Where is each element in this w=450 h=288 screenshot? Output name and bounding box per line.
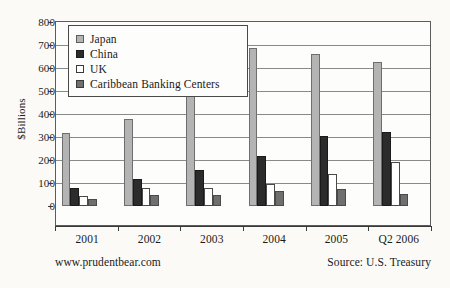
bar: [142, 188, 151, 206]
x-tick-mark: [243, 226, 244, 231]
y-tick-mark: [48, 68, 53, 69]
bar: [373, 62, 382, 206]
x-tick-label: 2005: [305, 233, 367, 245]
legend-label: Caribbean Banking Centers: [90, 78, 220, 90]
legend-swatch-icon: [76, 35, 84, 43]
bar: [88, 199, 97, 206]
bar: [133, 179, 142, 206]
y-tick-mark: [48, 160, 53, 161]
x-tick-label: Q2 2006: [368, 233, 430, 245]
bar: [249, 48, 258, 206]
legend-label: Japan: [90, 33, 117, 45]
bar-group: [305, 22, 367, 206]
bar-chart: $Billions 8007006005004003002001000 2001…: [0, 0, 450, 288]
bar-set: [368, 22, 430, 206]
y-tick-mark: [48, 206, 53, 207]
legend: JapanChinaUKCaribbean Banking Centers: [68, 25, 248, 97]
x-tick-host: [55, 226, 431, 232]
footer-website: www.prudentbear.com: [55, 256, 161, 268]
x-tick-label: 2004: [243, 233, 305, 245]
footer-source: Source: U.S. Treasury: [327, 256, 431, 268]
bar: [391, 162, 400, 206]
x-tick-mark: [118, 226, 119, 231]
bar: [79, 196, 88, 206]
bar: [150, 195, 159, 206]
bar: [186, 91, 195, 206]
y-tick-mark: [48, 91, 53, 92]
bar: [266, 184, 275, 206]
y-tick-mark: [48, 45, 53, 46]
legend-item[interactable]: Japan: [76, 31, 240, 46]
bar: [70, 188, 79, 206]
bar: [257, 156, 266, 206]
y-tick-mark: [48, 22, 53, 23]
x-tick-mark: [55, 226, 56, 231]
x-axis-labels: 20012002200320042005Q2 2006: [56, 233, 430, 245]
bar-group: [368, 22, 430, 206]
bar-set: [305, 22, 367, 206]
bar: [311, 54, 320, 206]
legend-item[interactable]: China: [76, 46, 240, 61]
bar: [337, 189, 346, 206]
x-tick-label: 2001: [56, 233, 118, 245]
bar: [382, 132, 391, 206]
footer: www.prudentbear.com Source: U.S. Treasur…: [55, 256, 431, 268]
legend-swatch-icon: [76, 50, 84, 58]
x-tick-mark: [368, 226, 369, 231]
bar: [213, 195, 222, 206]
bar: [195, 170, 204, 206]
y-axis: $Billions 8007006005004003002001000: [0, 21, 55, 206]
bar: [275, 191, 284, 206]
x-tick-mark: [180, 226, 181, 231]
bar-set: [243, 22, 305, 206]
bar-group: [243, 22, 305, 206]
bar: [204, 188, 213, 206]
bar: [400, 194, 409, 206]
legend-label: China: [90, 48, 118, 60]
x-tick-label: 2002: [118, 233, 180, 245]
legend-swatch-icon: [76, 65, 84, 73]
y-tick-mark: [48, 114, 53, 115]
legend-item[interactable]: UK: [76, 61, 240, 76]
y-tick-mark: [48, 183, 53, 184]
legend-label: UK: [90, 63, 107, 75]
bar: [62, 133, 71, 206]
legend-item[interactable]: Caribbean Banking Centers: [76, 76, 240, 91]
bar: [328, 174, 337, 206]
x-tick-mark: [431, 226, 432, 231]
bar: [320, 136, 329, 206]
legend-swatch-icon: [76, 80, 84, 88]
x-tick-mark: [306, 226, 307, 231]
y-tick-mark: [48, 137, 53, 138]
x-tick-label: 2003: [181, 233, 243, 245]
bar: [124, 119, 133, 206]
